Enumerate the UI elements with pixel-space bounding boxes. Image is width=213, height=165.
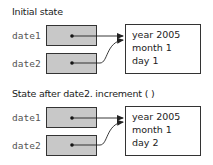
arrow-icon bbox=[72, 122, 123, 145]
reference-arrows bbox=[0, 0, 213, 165]
arrow-icon bbox=[72, 40, 123, 63]
